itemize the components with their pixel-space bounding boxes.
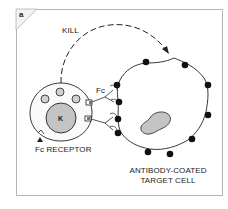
kill-label: KILL xyxy=(62,26,79,35)
fc-label: Fc xyxy=(96,86,105,95)
target-cell-label-line1: ANTIBODY-COATED xyxy=(128,166,208,175)
granule xyxy=(41,95,49,103)
fc-receptor-label: Fc RECEPTOR xyxy=(35,145,92,154)
killer-cell xyxy=(30,83,92,141)
granule xyxy=(56,88,64,96)
granule xyxy=(72,95,80,103)
fc-receptor-pointer-icon xyxy=(37,137,43,142)
panel-letter: a xyxy=(19,11,23,19)
target-cell xyxy=(117,58,208,149)
k-label: K xyxy=(58,114,63,123)
target-cell-label-line2: TARGET CELL xyxy=(128,176,208,185)
